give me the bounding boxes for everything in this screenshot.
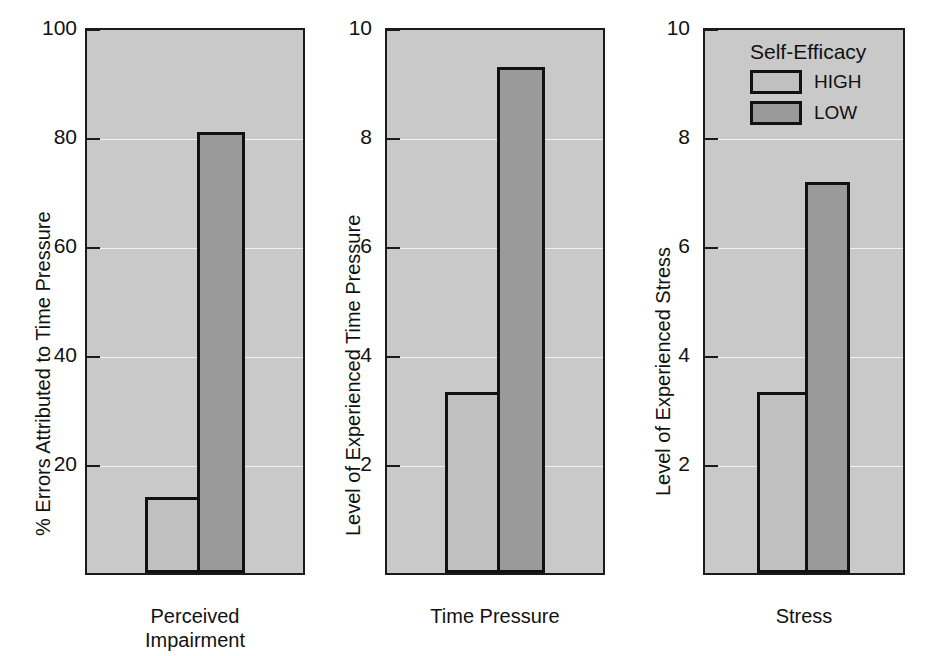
y-tick-label-10: 10 [628, 17, 690, 38]
legend: Self-Efficacy HIGH LOW [750, 40, 866, 132]
y-tick-label-20: 20 [5, 453, 77, 474]
panel-stress: Level of Experienced Stress Self-Efficac… [620, 0, 925, 656]
tick-mark-40 [87, 356, 100, 358]
y-tick-label-4: 4 [628, 344, 690, 365]
panel-time-pressure: Level of Experienced Time Pressure 10 8 … [310, 0, 620, 656]
gridline-20 [87, 466, 303, 467]
gridline-8 [387, 139, 603, 140]
gridline-4 [705, 357, 903, 358]
plot-area-panel-2 [385, 28, 605, 575]
legend-title: Self-Efficacy [750, 40, 866, 64]
tick-mark-10 [705, 29, 718, 31]
tick-mark-20 [87, 465, 100, 467]
x-axis-label-panel-3-line1: Stress [703, 604, 905, 628]
tick-mark-60 [87, 247, 100, 249]
legend-label-low: LOW [814, 103, 857, 123]
y-tick-label-10: 10 [310, 17, 372, 38]
bar-high-panel-2 [445, 392, 500, 573]
bar-high-panel-1 [145, 497, 200, 573]
gridline-40 [87, 357, 303, 358]
legend-swatch-low-icon [750, 101, 802, 125]
x-axis-label-panel-1-line2: Impairment [85, 628, 305, 652]
tick-mark-10 [387, 29, 400, 31]
x-axis-label-panel-1-line1: Perceived [85, 604, 305, 628]
panel-perceived-impairment: % Errors Attributed to Time Pressure 100… [0, 0, 310, 656]
bar-low-panel-1 [197, 132, 245, 573]
y-tick-label-40: 40 [5, 344, 77, 365]
tick-mark-8 [705, 138, 718, 140]
y-tick-label-80: 80 [5, 126, 77, 147]
tick-mark-6 [705, 247, 718, 249]
tick-mark-4 [387, 356, 400, 358]
legend-swatch-high-icon [750, 70, 802, 94]
bar-low-panel-2 [497, 67, 545, 573]
gridline-4 [387, 357, 603, 358]
tick-mark-100 [87, 29, 100, 31]
y-tick-label-8: 8 [628, 126, 690, 147]
y-tick-label-100: 100 [5, 17, 77, 38]
tick-mark-2 [387, 465, 400, 467]
figure-bar-chart-panels: % Errors Attributed to Time Pressure 100… [0, 0, 925, 656]
y-axis-title-panel-1: % Errors Attributed to Time Pressure [32, 211, 54, 536]
gridline-60 [87, 248, 303, 249]
bar-high-panel-3 [757, 392, 808, 573]
legend-label-high: HIGH [814, 72, 862, 92]
y-tick-label-2: 2 [628, 453, 690, 474]
plot-area-panel-3: Self-Efficacy HIGH LOW [703, 28, 905, 575]
x-axis-label-panel-2-line1: Time Pressure [385, 604, 605, 628]
y-tick-label-60: 60 [5, 235, 77, 256]
y-tick-label-6: 6 [310, 235, 372, 256]
tick-mark-2 [705, 465, 718, 467]
y-axis-title-panel-2: Level of Experienced Time Pressure [342, 215, 364, 536]
gridline-6 [387, 248, 603, 249]
gridline-8 [705, 139, 903, 140]
y-tick-label-8: 8 [310, 126, 372, 147]
bar-low-panel-3 [805, 182, 850, 573]
gridline-6 [705, 248, 903, 249]
y-tick-label-6: 6 [628, 235, 690, 256]
tick-mark-4 [705, 356, 718, 358]
plot-area-panel-1 [85, 28, 305, 575]
gridline-80 [87, 139, 303, 140]
tick-mark-6 [387, 247, 400, 249]
tick-mark-8 [387, 138, 400, 140]
y-tick-label-2: 2 [310, 453, 372, 474]
legend-entry-high[interactable]: HIGH [750, 70, 866, 94]
legend-entry-low[interactable]: LOW [750, 101, 866, 125]
y-tick-label-4: 4 [310, 344, 372, 365]
tick-mark-80 [87, 138, 100, 140]
